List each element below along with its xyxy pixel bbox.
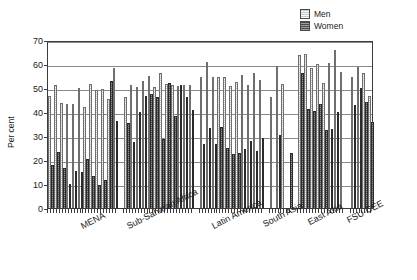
group-label-south-asia: South Asia xyxy=(261,200,304,228)
group-label-latin-america: Latin America xyxy=(210,197,263,231)
chart-figure: Men Women Per cent 010203040506070 MENAS… xyxy=(0,0,417,280)
x-axis-group-labels: MENASub-Saharan AfricaLatin AmericaSouth… xyxy=(0,0,417,280)
group-label-fsu-cee: FSU-CEE xyxy=(345,198,385,225)
group-label-east-asia: East Asia xyxy=(306,201,344,227)
group-label-mena: MENA xyxy=(79,210,107,231)
group-label-sub-saharan-africa: Sub-Saharan Africa xyxy=(125,187,199,231)
